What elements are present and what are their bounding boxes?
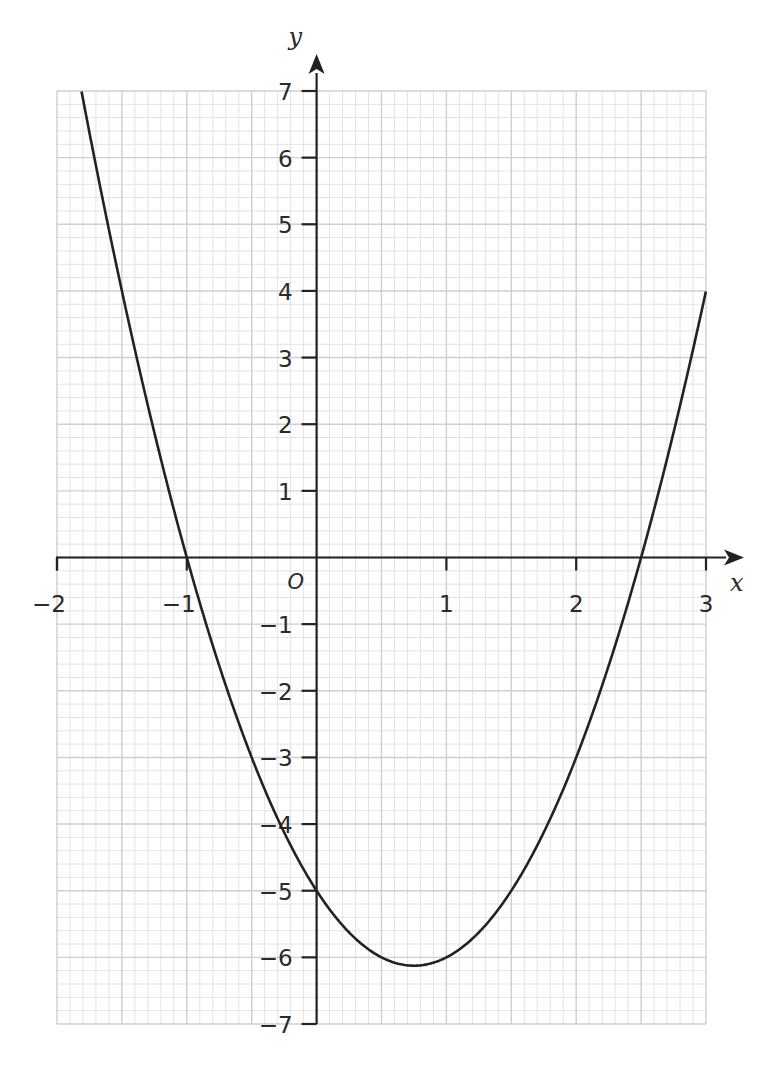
y-tick-label: −2 xyxy=(259,679,293,705)
y-tick-label: −1 xyxy=(259,612,293,638)
x-tick-label: 1 xyxy=(439,591,454,617)
y-tick-label: −6 xyxy=(259,945,293,971)
y-tick-label: 7 xyxy=(278,79,293,105)
y-axis-label: y xyxy=(288,23,303,51)
y-tick-label: 3 xyxy=(278,346,293,372)
y-tick-label: −7 xyxy=(259,1012,293,1038)
y-tick-label: 2 xyxy=(278,412,293,438)
y-tick-label: 4 xyxy=(278,279,293,305)
x-axis-label: x xyxy=(730,569,744,597)
y-tick-label: −3 xyxy=(259,745,293,771)
x-tick-label: −1 xyxy=(162,591,196,617)
y-tick-label: 6 xyxy=(278,146,293,172)
quadratic-graph: x y O −2−1123 7654321−1−2−3−4−5−6−7 xyxy=(0,0,779,1068)
x-tick-labels: −2−1123 xyxy=(32,591,713,617)
x-tick-label: −2 xyxy=(32,591,66,617)
x-tick-label: 2 xyxy=(569,591,584,617)
x-tick-label: 3 xyxy=(699,591,714,617)
x-axis-arrow-icon xyxy=(724,550,744,566)
y-tick-label: 1 xyxy=(278,479,293,505)
y-tick-label: 5 xyxy=(278,212,293,238)
y-tick-label: −5 xyxy=(259,879,293,905)
y-axis-arrow-icon xyxy=(309,54,325,74)
origin-label: O xyxy=(288,570,305,594)
parabola-curve xyxy=(82,92,706,966)
